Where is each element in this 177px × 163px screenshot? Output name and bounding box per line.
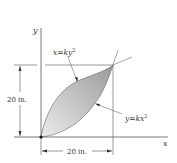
lower-curve-equation: y=kx2	[124, 113, 148, 123]
x-axis-label: x	[163, 139, 168, 148]
origin-point	[39, 135, 42, 138]
area-between-parabolas-diagram: 20 in. 20 in. y x x=ky2 y=kx2	[0, 0, 177, 163]
arrowhead-right-icon	[107, 150, 112, 153]
y-axis-label: y	[32, 26, 38, 35]
lower-curve-extension	[113, 50, 118, 65]
arrowhead-down-icon	[19, 131, 22, 136]
arrowhead-left-icon	[42, 150, 47, 153]
upper-curve-extension	[113, 57, 132, 65]
lower-leader-arrowhead-icon	[95, 104, 100, 107]
arrowhead-up-icon	[19, 66, 22, 71]
upper-curve-equation: x=ky2	[53, 47, 76, 57]
lower-curve-leader	[96, 104, 122, 114]
width-dimension-label: 20 in.	[67, 148, 87, 156]
shaded-area	[41, 65, 113, 137]
height-dimension-label: 20 in.	[7, 96, 27, 104]
